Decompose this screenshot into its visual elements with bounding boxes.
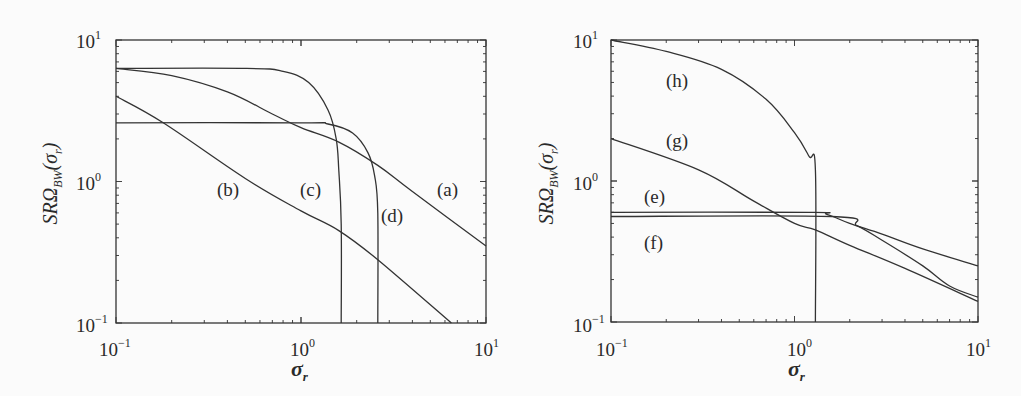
y-tick-bottom: 10−1	[573, 312, 605, 337]
y-tick-top: 101	[573, 28, 598, 53]
curve-e	[611, 212, 978, 266]
curve-label-d: (d)	[381, 205, 403, 227]
x-axis-label: σr	[291, 356, 308, 385]
y-tick-bottom: 10−1	[76, 312, 108, 337]
y-axis-label: SRΩBW(σr)	[535, 124, 562, 244]
curve-label-g: (g)	[666, 130, 688, 152]
y-tick-top: 101	[76, 28, 101, 53]
curve-label-f: (f)	[644, 232, 663, 254]
curve-label-b: (b)	[217, 179, 239, 201]
curve-label-e: (e)	[644, 186, 665, 208]
curve-d	[116, 123, 378, 323]
curve-label-a: (a)	[437, 179, 458, 201]
y-tick-mid: 100	[573, 170, 598, 195]
curve-g	[611, 139, 978, 302]
x-tick-left: 10−1	[596, 336, 628, 361]
y-tick-mid: 100	[76, 170, 101, 195]
chart-right: 101 100 10−1 10−1 100 101 σr SRΩBW(σr) (…	[505, 0, 1015, 396]
x-tick-right: 101	[474, 336, 499, 361]
x-tick-left: 10−1	[99, 336, 131, 361]
curve-label-c: (c)	[300, 179, 321, 201]
x-axis-label: σr	[788, 356, 805, 385]
x-tick-right: 101	[966, 336, 991, 361]
curve-f	[611, 216, 978, 297]
curve-label-h: (h)	[666, 70, 688, 92]
y-axis-label: SRΩBW(σr)	[39, 124, 66, 244]
curve-a	[116, 68, 486, 246]
chart-left: 101 100 10−1 10−1 100 101 σr SRΩBW(σr) (…	[0, 0, 510, 396]
curve-h	[611, 40, 816, 322]
